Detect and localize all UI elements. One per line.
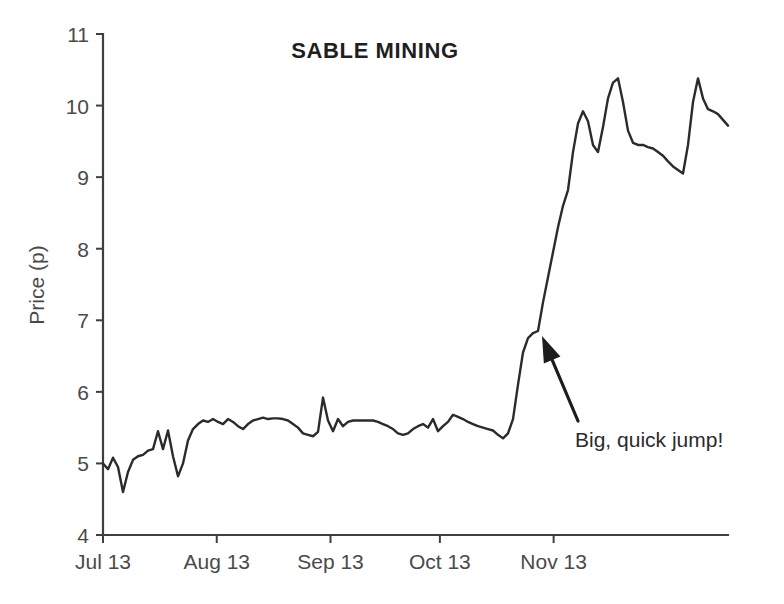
y-axis-title: Price (p) <box>25 245 48 324</box>
chart-background <box>0 0 784 604</box>
x-tick-label: Jul 13 <box>75 550 131 573</box>
y-tick-label: 6 <box>77 381 89 404</box>
y-tick-label: 8 <box>77 238 89 261</box>
y-tick-label: 9 <box>77 166 89 189</box>
x-tick-label: Aug 13 <box>183 550 250 573</box>
chart-title: SABLE MINING <box>291 38 458 63</box>
x-tick-label: Nov 13 <box>520 550 587 573</box>
annotation-label: Big, quick jump! <box>575 428 723 451</box>
price-line-chart: SABLE MINING Price (p) 4567891011 Jul 13… <box>0 0 784 604</box>
y-tick-label: 5 <box>77 452 89 475</box>
y-tick-label: 10 <box>66 95 89 118</box>
x-tick-label: Sep 13 <box>297 550 364 573</box>
y-tick-label: 4 <box>77 524 89 547</box>
chart-container: SABLE MINING Price (p) 4567891011 Jul 13… <box>0 0 784 604</box>
y-tick-label: 11 <box>67 23 89 46</box>
x-tick-label: Oct 13 <box>409 550 471 573</box>
y-tick-label: 7 <box>77 309 89 332</box>
